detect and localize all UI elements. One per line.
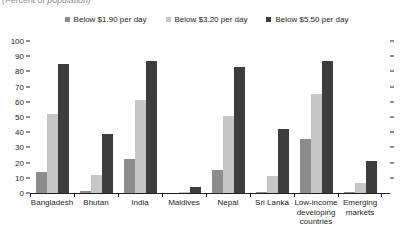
- bar[interactable]: [102, 134, 113, 193]
- bar[interactable]: [212, 170, 223, 193]
- bar[interactable]: [311, 94, 322, 193]
- chart-subtitle: (Percent of population): [2, 0, 91, 5]
- bar[interactable]: [223, 116, 234, 193]
- bar[interactable]: [124, 159, 135, 193]
- y-axis-tick-label: 10: [6, 173, 24, 182]
- poverty-headcount-bar-chart: (Percent of population) Below $1.90 per …: [0, 0, 413, 245]
- bar[interactable]: [366, 161, 377, 193]
- bar-group: [118, 41, 162, 193]
- legend-item[interactable]: Below $1.90 per day: [65, 15, 147, 24]
- x-axis-label: Low-income developing countries: [294, 198, 338, 227]
- y-axis-tick: 0: [6, 189, 30, 198]
- bar-group: [206, 41, 250, 193]
- chart-legend: Below $1.90 per dayBelow $3.20 per dayBe…: [0, 15, 413, 24]
- bar[interactable]: [36, 172, 47, 193]
- bar[interactable]: [47, 114, 58, 193]
- bar-group: [250, 41, 294, 193]
- y-axis-tick: 80: [6, 67, 30, 76]
- x-axis-label: Sri Lanka: [250, 198, 294, 227]
- bar-groups: [30, 41, 382, 193]
- y-axis-tick-label: 20: [6, 158, 24, 167]
- x-axis-label: India: [118, 198, 162, 227]
- legend-item-label: Below $1.90 per day: [74, 15, 147, 24]
- y-axis-tick: 30: [6, 143, 30, 152]
- bar[interactable]: [355, 183, 366, 193]
- y-axis-tick-label: 80: [6, 67, 24, 76]
- y-axis-tick-mark-right: [390, 86, 394, 87]
- legend-item-label: Below $3.20 per day: [175, 15, 248, 24]
- y-axis-tick: 100: [6, 37, 30, 46]
- y-axis-tick-mark-right: [390, 41, 394, 42]
- y-axis-tick-label: 90: [6, 52, 24, 61]
- y-axis-tick: 20: [6, 158, 30, 167]
- y-axis-tick-mark-right: [390, 101, 394, 102]
- x-axis-label: Emerging markets: [338, 198, 382, 227]
- bar[interactable]: [267, 176, 278, 193]
- y-axis-tick: 10: [6, 173, 30, 182]
- y-axis-tick-label: 70: [6, 82, 24, 91]
- legend-swatch-icon: [266, 17, 271, 22]
- bar[interactable]: [234, 67, 245, 193]
- legend-swatch-icon: [65, 17, 70, 22]
- x-axis-baseline: [30, 193, 390, 194]
- y-axis-tick-mark-right: [390, 147, 394, 148]
- y-axis-tick: 50: [6, 113, 30, 122]
- y-axis-tick-mark-right: [390, 71, 394, 72]
- y-axis-tick-label: 0: [6, 189, 24, 198]
- y-axis-tick-mark-right: [390, 56, 394, 57]
- y-axis-tick-label: 50: [6, 113, 24, 122]
- y-axis-tick-mark-right: [390, 132, 394, 133]
- bar[interactable]: [322, 61, 333, 193]
- x-axis-label: Bangladesh: [30, 198, 74, 227]
- bar[interactable]: [91, 175, 102, 193]
- legend-item[interactable]: Below $3.20 per day: [166, 15, 248, 24]
- bar[interactable]: [58, 64, 69, 193]
- y-axis-tick: 60: [6, 97, 30, 106]
- legend-swatch-icon: [166, 17, 171, 22]
- y-axis-tick: 40: [6, 128, 30, 137]
- legend-item[interactable]: Below $5.50 per day: [266, 15, 348, 24]
- bar[interactable]: [135, 100, 146, 193]
- y-axis-tick-label: 60: [6, 97, 24, 106]
- bar-group: [74, 41, 118, 193]
- bar[interactable]: [278, 129, 289, 193]
- bar[interactable]: [146, 61, 157, 193]
- plot-area: 1009080706050403020100: [30, 41, 382, 193]
- x-axis-labels: BangladeshBhutanIndiaMaldivesNepalSri La…: [30, 198, 382, 227]
- x-axis-label: Nepal: [206, 198, 250, 227]
- legend-item-label: Below $5.50 per day: [275, 15, 348, 24]
- bar-group: [294, 41, 338, 193]
- y-axis-tick-mark-right: [390, 117, 394, 118]
- x-axis-label: Maldives: [162, 198, 206, 227]
- y-axis-tick-label: 100: [6, 37, 24, 46]
- y-axis-tick-mark-right: [390, 162, 394, 163]
- bar-group: [338, 41, 382, 193]
- bar-group: [162, 41, 206, 193]
- y-axis-tick: 70: [6, 82, 30, 91]
- bar-group: [30, 41, 74, 193]
- y-axis-tick-label: 30: [6, 143, 24, 152]
- y-axis-tick-mark-right: [390, 177, 394, 178]
- y-axis-tick-label: 40: [6, 128, 24, 137]
- x-axis-label: Bhutan: [74, 198, 118, 227]
- bar[interactable]: [300, 139, 311, 193]
- y-axis-tick: 90: [6, 52, 30, 61]
